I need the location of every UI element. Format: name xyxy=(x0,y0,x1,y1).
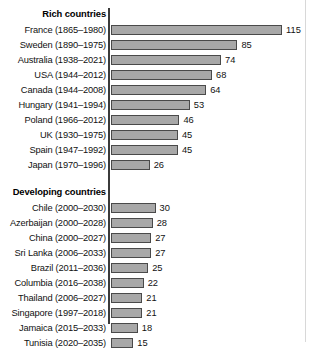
bar-area: 25 xyxy=(109,260,314,275)
bar xyxy=(111,40,237,50)
chart-row: Chile (2000–2030)30 xyxy=(0,200,314,215)
category-label: Sweden (1890–1975) xyxy=(0,40,109,50)
chart-row: France (1865–1980)115 xyxy=(0,22,314,37)
section-heading-rich: Rich countries xyxy=(0,8,109,19)
chart-row: Spain (1947–1992)45 xyxy=(0,142,314,157)
category-label: USA (1944–2012) xyxy=(0,70,109,80)
bar-value-label: 115 xyxy=(286,25,301,35)
chart-row: Japan (1970–1996)26 xyxy=(0,157,314,172)
category-label: Spain (1947–1992) xyxy=(0,145,109,155)
chart-row: Azerbaijan (2000–2028)28 xyxy=(0,215,314,230)
bar-area: 68 xyxy=(109,67,314,82)
category-label: Tunisia (2020–2035) xyxy=(0,338,109,348)
chart-row: Thailand (2006–2027)21 xyxy=(0,290,314,305)
bar-area: 26 xyxy=(109,157,314,172)
bar-area: 15 xyxy=(109,335,314,350)
chart-row: Australia (1938–2021)74 xyxy=(0,52,314,67)
bar-area: 21 xyxy=(109,290,314,305)
chart-row: Tunisia (2020–2035)15 xyxy=(0,335,314,350)
bar xyxy=(111,145,178,155)
bar xyxy=(111,218,153,228)
chart-row: China (2000–2027)27 xyxy=(0,230,314,245)
bar-value-label: 74 xyxy=(225,55,235,65)
chart-row: Columbia (2016–2038)22 xyxy=(0,275,314,290)
bar-value-label: 21 xyxy=(146,308,156,318)
category-label: Thailand (2006–2027) xyxy=(0,293,109,303)
bar xyxy=(111,203,156,213)
bar-value-label: 15 xyxy=(137,338,147,348)
bar-area: 18 xyxy=(109,320,314,335)
category-label: Canada (1944–2008) xyxy=(0,85,109,95)
bar xyxy=(111,25,282,35)
category-label: France (1865–1980) xyxy=(0,25,109,35)
section-heading-developing: Developing countries xyxy=(0,186,109,197)
bar-value-label: 45 xyxy=(182,130,192,140)
bar-area: 115 xyxy=(109,22,314,37)
bar xyxy=(111,160,150,170)
category-label: Poland (1966–2012) xyxy=(0,115,109,125)
bar-area: 85 xyxy=(109,37,314,52)
bar xyxy=(111,278,144,288)
chart-row: Sweden (1890–1975)85 xyxy=(0,37,314,52)
chart-row: Singapore (1997–2018)21 xyxy=(0,305,314,320)
bar-area: 21 xyxy=(109,305,314,320)
bar-value-label: 30 xyxy=(160,203,170,213)
bar-value-label: 18 xyxy=(142,323,152,333)
category-label: Japan (1970–1996) xyxy=(0,160,109,170)
bar-value-label: 26 xyxy=(154,160,164,170)
bar-area: 53 xyxy=(109,97,314,112)
bar xyxy=(111,308,142,318)
category-label: Australia (1938–2021) xyxy=(0,55,109,65)
bar-area: 46 xyxy=(109,112,314,127)
category-label: Columbia (2016–2038) xyxy=(0,278,109,288)
chart-row: Jamaica (2015–2033)18 xyxy=(0,320,314,335)
category-label: Singapore (1997–2018) xyxy=(0,308,109,318)
chart-row: Canada (1944–2008)64 xyxy=(0,82,314,97)
bar-value-label: 68 xyxy=(216,70,226,80)
bar-value-label: 22 xyxy=(148,278,158,288)
bar-area: 27 xyxy=(109,230,314,245)
bar xyxy=(111,70,212,80)
bar-value-label: 45 xyxy=(182,145,192,155)
category-label: Sri Lanka (2006–2033) xyxy=(0,248,109,258)
bar-value-label: 46 xyxy=(183,115,193,125)
bar-area: 28 xyxy=(109,215,314,230)
bar xyxy=(111,55,221,65)
bar xyxy=(111,338,133,348)
chart-row: Hungary (1941–1994)53 xyxy=(0,97,314,112)
category-label: UK (1930–1975) xyxy=(0,130,109,140)
bar-value-label: 85 xyxy=(241,40,251,50)
category-label: Jamaica (2015–2033) xyxy=(0,323,109,333)
bar-area: 27 xyxy=(109,245,314,260)
bar xyxy=(111,248,151,258)
bar-value-label: 64 xyxy=(210,85,220,95)
category-label: Hungary (1941–1994) xyxy=(0,100,109,110)
bar-area: 22 xyxy=(109,275,314,290)
bar xyxy=(111,233,151,243)
bar-value-label: 27 xyxy=(155,248,165,258)
category-label: Chile (2000–2030) xyxy=(0,203,109,213)
chart-row: USA (1944–2012)68 xyxy=(0,67,314,82)
category-label: China (2000–2027) xyxy=(0,233,109,243)
category-label: Azerbaijan (2000–2028) xyxy=(0,218,109,228)
bar-area: 45 xyxy=(109,127,314,142)
bar xyxy=(111,85,206,95)
bar xyxy=(111,323,138,333)
bar-area: 64 xyxy=(109,82,314,97)
bar-area: 74 xyxy=(109,52,314,67)
bar-value-label: 53 xyxy=(194,100,204,110)
bar xyxy=(111,100,190,110)
bar xyxy=(111,263,148,273)
bar-value-label: 27 xyxy=(155,233,165,243)
bar xyxy=(111,130,178,140)
bar-area: 45 xyxy=(109,142,314,157)
bar-area: 30 xyxy=(109,200,314,215)
chart-row: Poland (1966–2012)46 xyxy=(0,112,314,127)
bar-value-label: 28 xyxy=(157,218,167,228)
chart-row: Brazil (2011–2036)25 xyxy=(0,260,314,275)
chart-row: Sri Lanka (2006–2033)27 xyxy=(0,245,314,260)
chart-row: UK (1930–1975)45 xyxy=(0,127,314,142)
category-label: Brazil (2011–2036) xyxy=(0,263,109,273)
bar xyxy=(111,293,142,303)
